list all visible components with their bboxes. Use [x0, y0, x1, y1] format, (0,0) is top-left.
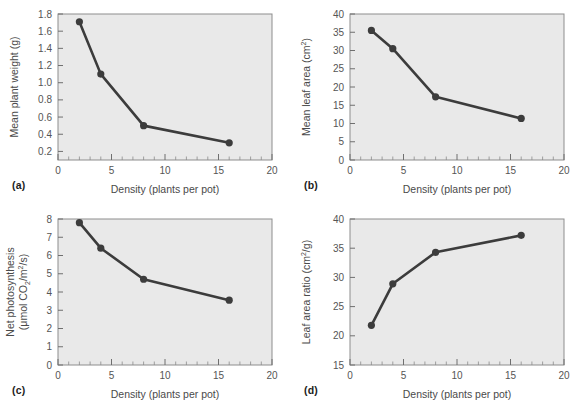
panel-d-x-tick-label: 15 [505, 370, 517, 381]
panel-b-x-tick-label: 10 [451, 165, 463, 176]
panel-b-y-tick-label: 15 [333, 100, 345, 111]
plot-background [58, 14, 272, 160]
panel-d-data-point [389, 280, 396, 287]
panel-c-data-point [97, 245, 104, 252]
panel-a: 0.20.40.60.81.01.21.41.61.8 05101520 Den… [0, 0, 292, 205]
panel-d-y-tick-label: 15 [333, 360, 345, 371]
panel-c-y-tick-label: 6 [46, 250, 52, 261]
panel-d-y-tick-label: 35 [333, 243, 345, 254]
panel-c-plot-area [58, 219, 272, 365]
panel-b-y-tick-label: 0 [338, 155, 344, 166]
panel-c-x-tick-label: 0 [55, 370, 61, 381]
panel-c-x-tick-label: 15 [213, 370, 225, 381]
panel-a-y-tick-label: 0.6 [38, 112, 52, 123]
panel-d-y-axis-title: Leaf area ratio (cm2/g) [300, 240, 312, 344]
panel-a-y-tick-label: 1.4 [38, 43, 52, 54]
panel-d-x-tick-label: 0 [347, 370, 353, 381]
panel-a-label: (a) [12, 179, 25, 191]
panel-a-y-tick-label: 1.8 [38, 9, 52, 20]
panel-a-chart: 0.20.40.60.81.01.21.41.61.8 05101520 Den… [0, 0, 292, 205]
panel-a-y-axis-title: Mean plant weight (g) [8, 37, 20, 138]
panel-a-data-point [226, 139, 233, 146]
panel-b-y-tick-label: 25 [333, 63, 345, 74]
panel-d-data-point [432, 249, 439, 256]
panel-a-y-tick-label: 1.6 [38, 26, 52, 37]
panel-d-y-tick-label: 40 [333, 214, 345, 225]
panel-b-chart: 0510152025303540 05101520 Density (plant… [292, 0, 584, 205]
panel-a-plot-area [58, 14, 272, 160]
panel-a-x-tick-label: 20 [266, 165, 278, 176]
panel-a-x-tick-label: 0 [55, 165, 61, 176]
plot-background [350, 14, 564, 160]
panel-c-y-axis: 012345678 [46, 214, 63, 371]
panel-b-y-tick-label: 35 [333, 27, 345, 38]
panel-b-data-point [518, 115, 525, 122]
panel-c-y-tick-label: 7 [46, 232, 52, 243]
panel-b-x-tick-label: 0 [347, 165, 353, 176]
panel-c-x-tick-label: 20 [266, 370, 278, 381]
panel-d-x-tick-label: 5 [401, 370, 407, 381]
panel-b-y-axis: 0510152025303540 [333, 9, 355, 166]
panel-d: 152025303540 05101520 Density (plants pe… [292, 205, 584, 410]
plot-background [58, 219, 272, 365]
panel-b-y-tick-label: 20 [333, 82, 345, 93]
panel-a-y-tick-label: 0.2 [38, 146, 52, 157]
panel-a-y-tick-label: 0.4 [38, 129, 52, 140]
panel-c-x-tick-label: 10 [159, 370, 171, 381]
panel-a-y-tick-label: 0.8 [38, 94, 52, 105]
panel-c-y-tick-label: 5 [46, 268, 52, 279]
panel-c-label: (c) [12, 384, 25, 396]
panel-a-y-axis: 0.20.40.60.81.01.21.41.61.8 [38, 9, 63, 157]
panel-c-y-tick-label: 1 [46, 341, 52, 352]
panel-d-x-tick-label: 20 [558, 370, 570, 381]
panel-d-y-tick-label: 25 [333, 301, 345, 312]
panel-a-data-point [140, 122, 147, 129]
panel-c: 012345678 05101520 Density (plants per p… [0, 205, 292, 410]
panel-c-y-axis-title-line1: Net photosynthesis [4, 247, 16, 336]
panel-b: 0510152025303540 05101520 Density (plant… [292, 0, 584, 205]
panel-d-y-tick-label: 20 [333, 330, 345, 341]
plot-background [350, 219, 564, 365]
four-panel-figure: 0.20.40.60.81.01.21.41.61.8 05101520 Den… [0, 0, 584, 410]
panel-b-data-point [432, 93, 439, 100]
panel-b-data-point [389, 45, 396, 52]
panel-a-y-tick-label: 1.2 [38, 60, 52, 71]
panel-b-x-axis-title: Density (plants per pot) [403, 183, 512, 195]
panel-b-x-tick-label: 5 [401, 165, 407, 176]
panel-d-label: (d) [304, 384, 318, 396]
panel-a-x-tick-label: 5 [109, 165, 115, 176]
panel-b-y-tick-label: 40 [333, 9, 345, 20]
panel-c-data-point [140, 276, 147, 283]
panel-b-y-tick-label: 30 [333, 45, 345, 56]
panel-b-label: (b) [304, 179, 318, 191]
panel-c-y-tick-label: 2 [46, 323, 52, 334]
panel-d-x-tick-label: 10 [451, 370, 463, 381]
panel-c-y-tick-label: 0 [46, 360, 52, 371]
panel-b-x-tick-label: 15 [505, 165, 517, 176]
panel-d-data-point [518, 232, 525, 239]
panel-a-x-tick-label: 15 [213, 165, 225, 176]
panel-b-plot-area [350, 14, 564, 160]
panel-c-y-tick-label: 4 [46, 287, 52, 298]
panel-a-x-axis-title: Density (plants per pot) [111, 183, 220, 195]
panel-c-x-axis-title: Density (plants per pot) [111, 388, 220, 400]
panel-a-x-tick-label: 10 [159, 165, 171, 176]
panel-b-y-tick-label: 10 [333, 118, 345, 129]
panel-c-y-axis-title-line2: (μmol CO2/m2/s) [17, 254, 31, 330]
panel-b-data-point [368, 27, 375, 34]
panel-b-y-tick-label: 5 [338, 136, 344, 147]
panel-a-data-point [76, 18, 83, 25]
panel-c-data-point [76, 219, 83, 226]
panel-d-chart: 152025303540 05101520 Density (plants pe… [292, 205, 584, 410]
panel-d-plot-area [350, 219, 564, 365]
panel-d-data-point [368, 322, 375, 329]
panel-c-x-tick-label: 5 [109, 370, 115, 381]
panel-c-chart: 012345678 05101520 Density (plants per p… [0, 205, 292, 410]
panel-c-y-tick-label: 3 [46, 305, 52, 316]
panel-b-y-axis-title: Mean leaf area (cm2) [300, 38, 312, 136]
panel-c-data-point [226, 297, 233, 304]
panel-c-y-tick-label: 8 [46, 214, 52, 225]
panel-d-x-axis-title: Density (plants per pot) [403, 388, 512, 400]
panel-d-y-tick-label: 30 [333, 272, 345, 283]
panel-a-data-point [97, 71, 104, 78]
